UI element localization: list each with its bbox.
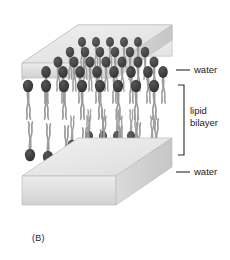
lipid-bilayer-label-line1: lipid (190, 105, 207, 116)
water-bottom-label: water (193, 166, 217, 177)
water-top-label: water (193, 64, 217, 75)
bilayer-diagram-svg: water lipid bilayer water (0, 0, 230, 260)
lipid-bilayer-figure: water lipid bilayer water (B) (0, 0, 230, 260)
lipid-bilayer-label-line2: bilayer (190, 117, 218, 128)
annotations: water lipid bilayer water (176, 64, 218, 177)
panel-caption: (B) (32, 233, 45, 243)
lipid-bilayer-bracket (178, 85, 184, 155)
water-slab-bottom (22, 138, 172, 205)
